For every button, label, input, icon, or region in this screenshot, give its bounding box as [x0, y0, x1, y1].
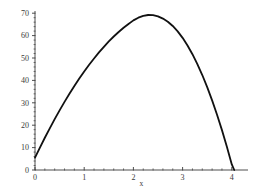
x-tick-label: 0 [33, 173, 37, 182]
x-tick-label: 1 [82, 173, 86, 182]
chart-canvas: 010203040506070 01234 x [0, 0, 262, 190]
y-tick-label: 70 [21, 9, 29, 18]
x-tick-label: 3 [181, 173, 185, 182]
y-tick-label: 60 [21, 31, 29, 40]
x-tick-label: 4 [230, 173, 234, 182]
y-tick-label: 20 [21, 121, 29, 130]
y-tick-label: 10 [21, 143, 29, 152]
y-tick-label: 40 [21, 76, 29, 85]
chart-figure: 010203040506070 01234 x [0, 0, 262, 190]
chart-background [0, 0, 262, 190]
x-tick-label: 2 [131, 173, 135, 182]
y-tick-label: 50 [21, 54, 29, 63]
y-tick-label: 30 [21, 99, 29, 108]
x-axis-label: x [139, 179, 143, 188]
y-tick-label: 0 [25, 166, 29, 175]
